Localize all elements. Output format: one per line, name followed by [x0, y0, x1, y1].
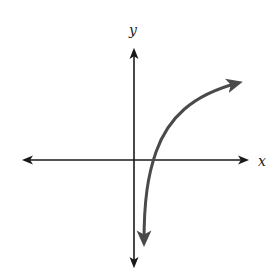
y-axis-label: y: [128, 22, 138, 38]
x-axis-label: x: [258, 153, 266, 169]
coordinate-plane: y x: [0, 0, 275, 275]
function-curve: [144, 83, 238, 242]
